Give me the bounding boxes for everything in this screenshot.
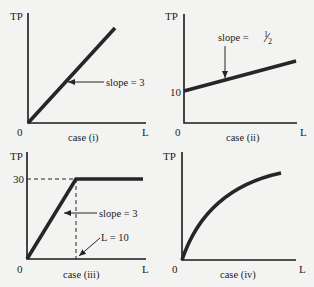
- slope-annotation: slope = 3: [99, 208, 138, 219]
- axes: [184, 14, 297, 123]
- tp-line: [27, 179, 143, 259]
- y-axis-label: TP: [163, 150, 176, 162]
- panel-caption: case (iii): [63, 269, 100, 281]
- y-axis-label: TP: [165, 10, 178, 22]
- fraction-denominator: 2: [268, 37, 272, 46]
- origin-label: 0: [172, 263, 178, 275]
- l-annotation: L = 10: [101, 232, 129, 243]
- axes: [182, 152, 296, 260]
- panel-caption: case (ii): [226, 132, 260, 144]
- origin-label: 0: [175, 126, 181, 138]
- slope-annotation: slope =: [218, 32, 249, 43]
- production-function-figure: TP 0 L case (i) slope = 3 TP 0 10 L case…: [0, 0, 314, 287]
- origin-label: 0: [17, 126, 23, 138]
- x-axis-label: L: [142, 126, 149, 138]
- panel-caption: case (iv): [220, 269, 256, 281]
- y-tick-10: 10: [170, 86, 182, 98]
- slope-annotation: slope = 3: [106, 77, 145, 88]
- panel-case-i: TP 0 L case (i) slope = 3: [10, 10, 149, 144]
- panel-case-iv: TP 0 L case (iv): [163, 150, 306, 281]
- tp-curve: [182, 173, 281, 260]
- axes: [28, 13, 146, 123]
- panel-case-iii: TP 0 30 L case (iii) slope = 3 L = 10: [10, 150, 149, 281]
- y-axis-label: TP: [10, 150, 23, 162]
- arrow-icon: [79, 238, 100, 256]
- tp-line: [28, 28, 115, 123]
- panel-case-ii: TP 0 10 L case (ii) slope = 1 2: [165, 10, 307, 144]
- x-axis-label: L: [300, 126, 307, 138]
- y-tick-30: 30: [13, 173, 25, 185]
- x-axis-label: L: [299, 263, 306, 275]
- panel-caption: case (i): [68, 132, 99, 144]
- y-axis-label: TP: [10, 10, 23, 22]
- tp-line: [184, 61, 296, 91]
- x-axis-label: L: [142, 263, 149, 275]
- origin-label: 0: [17, 263, 23, 275]
